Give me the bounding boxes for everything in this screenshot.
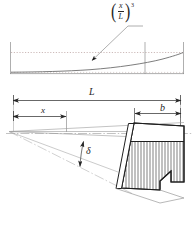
formula-left-paren: (	[111, 1, 116, 22]
formula-exponent: 3	[131, 2, 134, 8]
formula-denominator: L	[118, 13, 124, 21]
angle-delta-indicator	[80, 142, 84, 167]
upper-plot-group	[10, 26, 184, 74]
dimension-label-x: x	[41, 106, 45, 115]
formula-right-paren: )	[125, 1, 130, 22]
angle-label-delta: δ	[86, 146, 91, 156]
figure-root: ( x L ) 3 L x b δ	[0, 0, 194, 226]
figure-canvas	[0, 0, 194, 226]
curve-leader-line	[92, 26, 143, 61]
tool-body	[116, 123, 184, 203]
formula-numerator: x	[118, 2, 124, 10]
power-law-formula-label: ( x L ) 3	[110, 1, 134, 22]
formula-fraction: x L	[117, 2, 124, 21]
dimension-label-b: b	[160, 103, 165, 113]
dimension-label-L: L	[89, 87, 95, 97]
